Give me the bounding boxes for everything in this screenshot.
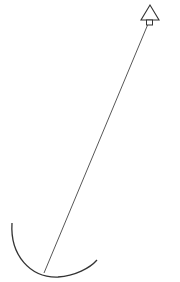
rod-line bbox=[44, 24, 148, 273]
arrowhead-triangle-icon bbox=[141, 5, 159, 20]
diagram-svg bbox=[0, 0, 180, 282]
arrow-tab bbox=[147, 20, 153, 25]
arc-curve bbox=[12, 223, 97, 277]
diagram-canvas bbox=[0, 0, 180, 282]
